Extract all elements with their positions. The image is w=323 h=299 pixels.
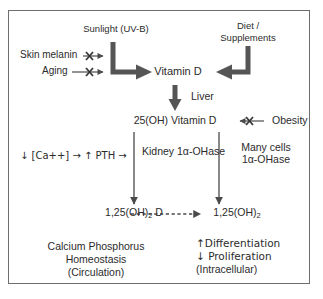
node-diet-supplements-line1: Diet /: [208, 21, 288, 32]
calcitriol-circulating-suffix: D: [152, 206, 163, 218]
calcitriol-intracellular-formula: 1,25(OH): [213, 206, 256, 218]
calcitriol-intracellular-subscript: 2: [256, 211, 260, 220]
node-sunlight: Sunlight (UV-B): [66, 24, 166, 35]
node-calcitriol-intracellular: 1,25(OH)2: [182, 207, 292, 220]
outcome-left-line1: Calcium Phosphorus: [34, 241, 158, 253]
node-25oh-vitamin-d: 25(OH) Vitamin D: [125, 115, 225, 127]
node-kidney-ohase: Kidney 1α-OHase: [142, 146, 225, 158]
node-diet-supplements-line2: Supplements: [208, 33, 288, 44]
node-skin-melanin: Skin melanin: [20, 49, 77, 60]
diagram-canvas: Sunlight (UV-B) Skin melanin Aging Diet …: [0, 0, 323, 299]
node-calcitriol-circulating: 1,25(OH)2 D: [79, 207, 189, 220]
outcome-right-line2: ↓ Proliferation: [196, 251, 272, 263]
outcome-left-line2: Homeostasis: [34, 254, 158, 266]
outcome-right-line3: (Intracellular): [196, 264, 257, 276]
node-many-cells-line1: Many cells: [228, 142, 304, 154]
node-vitamin-d: Vitamin D: [143, 65, 213, 77]
outcome-right-line1: ↑Differentiation: [196, 238, 280, 250]
node-calcium-pth: ↓ [Ca++] → ↑ PTH →: [20, 150, 127, 161]
node-many-cells-line2: 1α-OHase: [228, 154, 304, 166]
outcome-left-line3: (Circulation): [34, 267, 158, 279]
calcitriol-circulating-formula: 1,25(OH): [105, 206, 148, 218]
node-obesity: Obesity: [272, 115, 308, 127]
node-liver: Liver: [191, 91, 214, 103]
node-aging: Aging: [42, 65, 68, 76]
